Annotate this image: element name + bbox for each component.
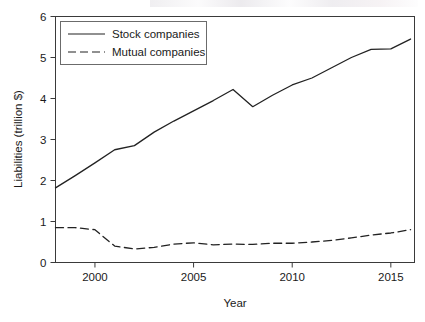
y-axis-tick-label: 6 xyxy=(40,11,46,23)
legend-label-stock-companies: Stock companies xyxy=(112,28,200,40)
y-axis-tick-label: 5 xyxy=(40,52,46,64)
y-axis-tick-label: 4 xyxy=(40,93,47,105)
x-axis-tick-label: 2010 xyxy=(279,271,305,283)
x-axis-tick-label: 2015 xyxy=(378,271,404,283)
liabilities-line-chart: 0123456 2000200520102015 Liabilities (tr… xyxy=(0,0,425,322)
y-axis-title: Liabilities (trillion $) xyxy=(12,90,24,188)
legend-label-mutual-companies: Mutual companies xyxy=(112,46,206,58)
y-axis-tick-label: 2 xyxy=(40,175,46,187)
y-axis-tick-label: 0 xyxy=(40,257,46,269)
chart-figure: 0123456 2000200520102015 Liabilities (tr… xyxy=(0,0,425,322)
x-axis-tick-label: 2005 xyxy=(181,271,207,283)
chart-legend: Stock companies Mutual companies xyxy=(61,22,207,65)
y-axis-tick-label: 3 xyxy=(40,134,46,146)
y-axis-tick-label: 1 xyxy=(40,216,46,228)
x-axis-tick-label: 2000 xyxy=(82,271,108,283)
x-axis-title: Year xyxy=(223,297,246,309)
